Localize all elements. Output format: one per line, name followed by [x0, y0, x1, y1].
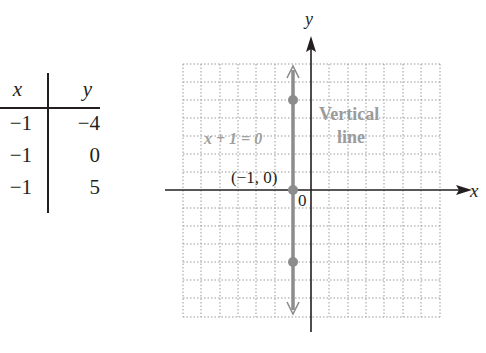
vertical-line-graph [287, 66, 299, 314]
y-axis [306, 36, 316, 332]
origin-label: 0 [298, 191, 307, 210]
point-marker [288, 257, 298, 267]
x-axis [165, 185, 472, 195]
annotation-line: line [337, 127, 365, 147]
x-axis-label: x [469, 180, 479, 201]
point-label: (−1, 0) [231, 168, 277, 187]
coordinate-graph: x y 0 (−1, 0) x + 1 = 0 Vertical line [0, 0, 486, 353]
equation-label: x + 1 = 0 [203, 130, 262, 147]
y-axis-label: y [303, 9, 313, 29]
point-marker [288, 95, 298, 105]
annotation-vertical: Vertical [319, 104, 379, 124]
point-marker [288, 185, 298, 195]
